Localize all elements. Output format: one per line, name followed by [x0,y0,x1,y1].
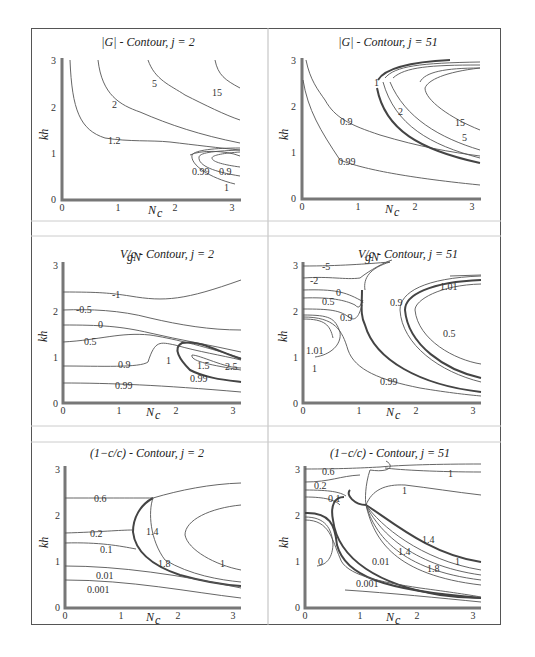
svg-text:c: c [157,206,163,220]
svg-text:c: c [155,408,161,422]
svg-text:0.99: 0.99 [380,376,398,387]
svg-text:3: 3 [470,201,475,212]
x-ticks: 0 1 2 3 [60,202,235,213]
svg-text:0.001: 0.001 [356,578,379,589]
axes [63,262,241,403]
svg-text:0: 0 [300,201,305,212]
svg-text:1.2: 1.2 [108,135,121,146]
svg-text:1: 1 [293,352,298,363]
svg-text:kh: kh [37,537,51,548]
svg-text:0.9: 0.9 [340,312,353,323]
x-axis-label: N [147,203,157,217]
panel-v-j2: V/c - Contour, j = 2 gN 3 2 1 0 0 1 2 3 … [36,247,241,422]
svg-text:2: 2 [55,510,60,521]
svg-text:kh: kh [277,537,291,548]
svg-text:1.4: 1.4 [422,534,435,545]
svg-text:3: 3 [231,405,236,416]
svg-text:2: 2 [51,102,56,113]
svg-text:1.4: 1.4 [146,526,159,537]
svg-text:2: 2 [53,306,58,317]
svg-text:0.6: 0.6 [322,466,335,477]
svg-text:0: 0 [318,556,323,567]
svg-text:3: 3 [291,55,296,66]
svg-text:0: 0 [293,398,298,409]
svg-text:2: 2 [413,201,418,212]
svg-text:0: 0 [60,202,65,213]
svg-text:3: 3 [471,610,476,621]
svg-text:0.001: 0.001 [87,584,110,595]
svg-text:0.5: 0.5 [322,296,335,307]
svg-text:1: 1 [166,355,171,366]
svg-text:0: 0 [51,194,56,205]
svg-text:kh: kh [277,129,291,140]
svg-text:0.5: 0.5 [443,328,456,339]
svg-text:2.5: 2.5 [225,361,238,372]
svg-text:kh: kh [36,331,50,342]
svg-text:c: c [155,613,161,627]
svg-text:3: 3 [55,464,60,475]
svg-text:N: N [145,405,155,419]
svg-text:15: 15 [455,117,465,128]
svg-text:N: N [145,610,155,624]
svg-text:N: N [385,610,395,624]
y-ticks: 3 2 1 0 [51,55,56,205]
svg-text:-0.5: -0.5 [76,304,92,315]
svg-text:0.6: 0.6 [94,493,107,504]
svg-text:0.1: 0.1 [100,544,113,555]
svg-text:N: N [384,202,394,216]
svg-text:1: 1 [224,182,229,193]
svg-text:1: 1 [53,352,58,363]
svg-text:1: 1 [291,147,296,158]
panel-title: (1−c/c) - Contour, j = 51 [330,446,450,460]
panel-g-j51: |G| - Contour, j = 51 3 2 1 0 0 1 2 3 N … [277,35,481,219]
svg-text:3: 3 [293,260,298,271]
y-axis-label: kh [37,129,51,140]
svg-text:0: 0 [303,610,308,621]
svg-text:gN: gN [365,250,380,264]
panel-title: (1−c/c) - Contour, j = 2 [90,446,204,460]
svg-text:1: 1 [55,556,60,567]
svg-text:0: 0 [61,405,66,416]
svg-text:0.9: 0.9 [118,359,131,370]
svg-text:0.2: 0.2 [90,528,103,539]
svg-text:0: 0 [55,602,60,613]
svg-text:1: 1 [51,148,56,159]
svg-text:0.9: 0.9 [340,116,353,127]
svg-text:2: 2 [176,610,181,621]
svg-text:0.01: 0.01 [96,570,114,581]
svg-text:1: 1 [117,405,122,416]
svg-text:-1: -1 [112,289,120,300]
panel-c-j2: (1−c/c) - Contour, j = 2 3 2 1 0 0 1 2 3… [37,446,241,627]
svg-text:2: 2 [414,405,419,416]
svg-text:3: 3 [53,260,58,271]
svg-text:0.5: 0.5 [84,336,97,347]
svg-text:0.99: 0.99 [338,156,356,167]
svg-text:3: 3 [51,55,56,66]
svg-text:2: 2 [295,510,300,521]
svg-text:5: 5 [462,132,467,143]
panel-title: |G| - Contour, j = 51 [338,35,437,49]
svg-text:15: 15 [212,87,222,98]
svg-text:1: 1 [220,558,225,569]
svg-text:2: 2 [112,99,117,110]
svg-text:0: 0 [98,319,103,330]
svg-text:1: 1 [312,363,317,374]
svg-text:3: 3 [471,405,476,416]
svg-text:c: c [395,408,401,422]
svg-text:2: 2 [174,405,179,416]
svg-text:5: 5 [152,78,157,89]
svg-text:0: 0 [63,610,68,621]
svg-text:-5: -5 [322,261,330,272]
svg-text:1: 1 [119,610,124,621]
svg-text:3: 3 [295,464,300,475]
svg-text:1.01: 1.01 [306,345,324,356]
svg-text:1.5: 1.5 [197,360,210,371]
svg-text:2: 2 [398,106,403,117]
svg-text:c: c [394,205,400,219]
svg-text:0.99: 0.99 [190,373,208,384]
svg-text:1: 1 [374,77,379,88]
svg-text:1.4: 1.4 [398,546,411,557]
svg-text:0: 0 [291,193,296,204]
svg-text:1.8: 1.8 [158,558,171,569]
svg-text:0.1: 0.1 [328,493,341,504]
